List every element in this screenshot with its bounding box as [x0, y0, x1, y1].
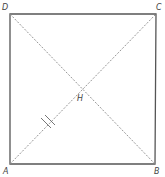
diagonal-bd [10, 14, 155, 164]
square-diagram: D C A B H [0, 0, 165, 177]
congruence-tick-marks [41, 115, 55, 128]
label-d: D [2, 3, 8, 12]
label-c: C [156, 3, 162, 12]
label-h: H [77, 94, 83, 103]
diagonal-ac [10, 14, 156, 164]
label-b: B [154, 167, 160, 176]
label-a: A [2, 167, 8, 176]
